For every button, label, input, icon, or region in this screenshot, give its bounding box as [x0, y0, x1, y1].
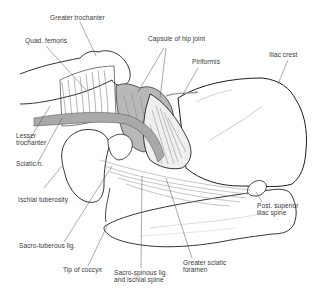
label-lesser-trochanter: Lesser trochanter [16, 132, 46, 147]
label-post-superior-iliac-spine: Post. superior iliac spine [257, 202, 298, 217]
ilium-bone [178, 78, 307, 187]
label-piriformis: Piriformis [192, 58, 220, 65]
label-capsule-of-hip-joint: Capsule of hip joint [148, 35, 205, 42]
sacrum-bone [104, 189, 296, 247]
label-greater-trochanter: Greater trochanter [50, 14, 105, 21]
label-iliac-crest: Iliac crest [269, 51, 297, 58]
label-ischial-tuberosity: Ischial tuberosity [18, 196, 68, 203]
label-quad-femoris: Quad. femoris [25, 37, 67, 44]
label-sacro-spinous-lig: Sacro-spinous lig. and ischial spine [114, 269, 167, 284]
label-greater-sciatic-foramen: Greater sciatic foramen [183, 259, 226, 274]
label-sciatic-n: Sciatic n. [16, 160, 43, 167]
femur-bone [20, 51, 130, 104]
label-sacro-tuberous-lig: Sacro-tuberous lig. [19, 242, 75, 249]
ischium-bone [62, 130, 110, 203]
label-tip-of-coccyx: Tip of coccyx [63, 266, 102, 273]
hip-anatomy-diagram: Greater trochanter Quad. femoris Capsule… [0, 0, 315, 296]
